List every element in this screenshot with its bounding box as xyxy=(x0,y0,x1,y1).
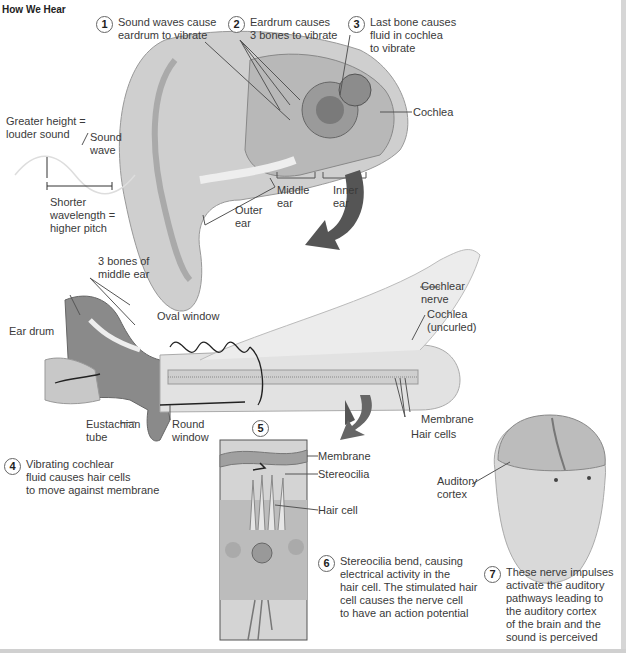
step-number: 5 xyxy=(252,420,269,437)
step-text: Vibrating cochlear fluid causes hair cel… xyxy=(26,458,184,497)
step-text: Last bone causes fluid in cochlea to vib… xyxy=(370,16,478,55)
label-sound-wave: Sound wave xyxy=(90,131,122,157)
step-text: These nerve impulses activate the audito… xyxy=(506,566,624,644)
label-shorter-wavelength: Shorter wavelength = higher pitch xyxy=(50,196,115,235)
bottom-border xyxy=(0,649,626,653)
head-brain-drawing xyxy=(494,415,605,583)
label-cochlea-uncurled: Cochlea (uncurled) xyxy=(427,308,477,334)
right-border xyxy=(621,0,626,653)
label-middle-ear: Middle ear xyxy=(277,184,309,210)
hair-cell-inset xyxy=(220,440,307,640)
label-eustachian-tube: Eustachian tube xyxy=(86,418,140,444)
label-three-bones: 3 bones of middle ear xyxy=(98,255,149,281)
label-auditory-cortex: Auditory cortex xyxy=(437,475,477,501)
step-1: 1 Sound waves cause eardrum to vibrate xyxy=(96,16,246,42)
label-ear-drum: Ear drum xyxy=(9,325,54,338)
label-outer-ear: Outer ear xyxy=(235,204,263,230)
step-4: 4 Vibrating cochlear fluid causes hair c… xyxy=(4,458,184,497)
step-2: 2 Eardrum causes 3 bones to vibrate xyxy=(228,16,358,42)
step-text: Sound waves cause eardrum to vibrate xyxy=(118,16,246,42)
label-greater-height: Greater height = louder sound xyxy=(6,115,86,141)
label-stereocilia: Stereocilia xyxy=(318,468,369,481)
step-number: 7 xyxy=(484,566,501,583)
label-hair-cell: Hair cell xyxy=(318,504,358,517)
label-inner-ear: Inner ear xyxy=(333,184,358,210)
label-oval-window: Oval window xyxy=(157,310,219,323)
outer-ear-drawing xyxy=(119,31,407,311)
step-number: 6 xyxy=(318,555,335,572)
sound-wave-curve xyxy=(15,156,135,194)
step-number: 1 xyxy=(96,16,113,33)
label-membrane-inset: Membrane xyxy=(318,450,371,463)
step-text: Stereocilia bend, causing electrical act… xyxy=(340,555,498,620)
ear-illustration xyxy=(0,0,626,653)
step-7: 7 These nerve impulses activate the audi… xyxy=(484,566,624,644)
step-text: Eardrum causes 3 bones to vibrate xyxy=(250,16,358,42)
step-6: 6 Stereocilia bend, causing electrical a… xyxy=(318,555,498,620)
label-membrane-main: Membrane xyxy=(421,413,474,426)
label-hair-cells: Hair cells xyxy=(411,428,456,441)
step-number: 4 xyxy=(4,458,21,475)
step-3: 3 Last bone causes fluid in cochlea to v… xyxy=(348,16,478,55)
label-round-window: Round window xyxy=(172,418,209,444)
step-number: 2 xyxy=(228,16,245,33)
label-cochlear-nerve: Cochlear nerve xyxy=(421,280,465,306)
step-number: 3 xyxy=(348,16,365,33)
label-cochlea: Cochlea xyxy=(413,106,453,119)
